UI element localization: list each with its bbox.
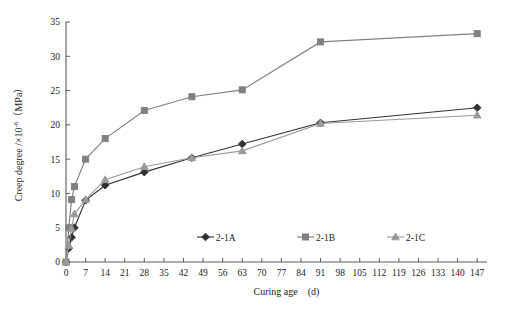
legend-label: 2-1B [316,233,335,243]
x-tick-label: 49 [198,268,208,278]
x-tick-label: 119 [392,268,406,278]
x-tick-label: 56 [218,268,228,278]
data-point-square [102,136,108,142]
data-point-square [71,184,77,190]
y-tick-label: 5 [55,223,60,233]
x-tick-label: 147 [470,268,485,278]
data-series-group [62,31,481,266]
data-point-square [69,197,75,203]
x-axis-title: Curing age (d) [254,286,320,298]
chart-legend: 2-1A2-1B2-1C [197,233,425,243]
data-point-square [474,31,480,37]
y-tick-label: 25 [51,86,61,96]
x-tick-label: 133 [431,268,446,278]
x-tick-label: 63 [237,268,247,278]
x-tick-label: 7 [83,268,88,278]
y-axis-title: Creep degree /×10-6（MPa） [12,83,24,202]
x-tick-label: 35 [159,268,169,278]
x-tick-label: 42 [179,268,189,278]
data-point-square [189,94,195,100]
legend-item-2-1A[interactable]: 2-1A [197,233,236,243]
legend-item-2-1B[interactable]: 2-1B [297,233,335,243]
data-point-triangle [474,111,481,118]
data-point-square [83,156,89,162]
x-tick-label: 98 [335,268,345,278]
x-tick-label: 14 [100,268,110,278]
data-point-diamond [202,233,210,241]
x-tick-label: 28 [140,268,150,278]
data-point-square [318,39,324,45]
svg-text:Creep degree /×10-6（MPa）: Creep degree /×10-6（MPa） [12,83,24,202]
x-tick-label: 91 [316,268,326,278]
x-tick-label: 0 [64,268,69,278]
x-tick-label: 84 [296,268,306,278]
y-tick-label: 0 [55,257,60,267]
y-tick-label: 20 [51,120,61,130]
x-tick-label: 140 [451,268,466,278]
x-tick-label: 126 [411,268,426,278]
data-point-square [239,87,245,93]
y-tick-label: 10 [51,189,61,199]
y-tick-label: 15 [51,155,61,165]
y-tick-label: 35 [51,17,61,27]
chart-canvas: 05101520253035 0714212835424956637077849… [0,0,505,309]
legend-label: 2-1C [406,233,425,243]
data-point-square [141,107,147,113]
x-tick-label: 70 [257,268,267,278]
legend-label: 2-1A [216,233,236,243]
series-2-1B [63,31,480,265]
legend-item-2-1C[interactable]: 2-1C [387,233,425,243]
x-tick-label: 21 [120,268,130,278]
data-point-diamond [68,234,76,242]
series-line [66,34,477,262]
x-tick-label: 77 [277,268,287,278]
x-axis-ticks: 0714212835424956637077849198105112119126… [64,258,485,278]
data-point-square [303,234,309,240]
y-tick-label: 30 [51,52,61,62]
x-tick-label: 112 [372,268,386,278]
x-tick-label: 105 [353,268,368,278]
creep-degree-chart: 05101520253035 0714212835424956637077849… [0,0,505,309]
